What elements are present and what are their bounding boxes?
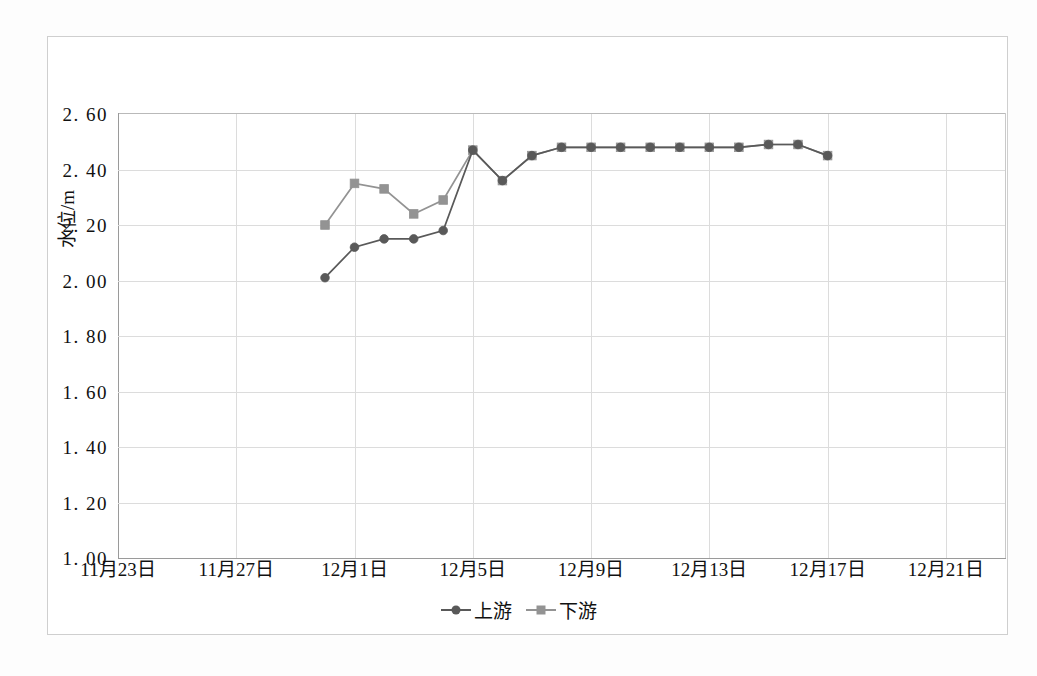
gridline-horizontal	[118, 503, 1005, 504]
legend-line-swatch	[441, 609, 471, 611]
gridline-vertical	[709, 114, 710, 558]
gridline-horizontal	[118, 447, 1005, 448]
x-tick-label: 11月27日	[199, 560, 274, 579]
y-tick-label: 1. 80	[0, 327, 108, 346]
gridline-vertical	[473, 114, 474, 558]
y-tick-label: 2. 40	[0, 161, 108, 180]
x-tick-label: 12月1日	[321, 560, 388, 579]
gridline-horizontal	[118, 336, 1005, 337]
gridline-vertical	[236, 114, 237, 558]
y-tick-label: 1. 60	[0, 383, 108, 402]
legend-label: 下游	[559, 596, 597, 623]
legend-line-swatch	[526, 609, 556, 611]
y-tick-label: 1. 20	[0, 494, 108, 513]
legend-marker-circle	[451, 605, 460, 614]
x-tick-label: 12月13日	[671, 560, 747, 579]
x-tick-label: 12月21日	[908, 560, 984, 579]
gridline-vertical	[355, 114, 356, 558]
y-tick-label: 2. 00	[0, 272, 108, 291]
x-tick-label: 12月5日	[440, 560, 507, 579]
gridline-horizontal	[118, 170, 1005, 171]
y-tick-label: 2. 60	[0, 105, 108, 124]
y-tick-label: 2. 20	[0, 216, 108, 235]
legend-marker-square	[536, 605, 545, 614]
legend-item[interactable]: 下游	[526, 596, 597, 623]
x-tick-label: 11月23日	[80, 560, 155, 579]
chart-page: 水位/m 2. 602. 402. 202. 001. 801. 601. 40…	[0, 0, 1037, 676]
gridline-vertical	[828, 114, 829, 558]
x-tick-label: 12月9日	[558, 560, 625, 579]
x-tick-label: 12月17日	[790, 560, 866, 579]
gridline-vertical	[591, 114, 592, 558]
gridline-horizontal	[118, 281, 1005, 282]
plot-border-right	[1005, 113, 1006, 559]
legend-item[interactable]: 上游	[441, 596, 512, 623]
chart-legend: 上游下游	[0, 596, 1037, 623]
gridline-horizontal	[118, 392, 1005, 393]
gridline-horizontal	[118, 225, 1005, 226]
legend-label: 上游	[474, 596, 512, 623]
gridline-vertical	[946, 114, 947, 558]
plot-border-bottom	[118, 558, 1006, 559]
plot-border-top	[118, 113, 1006, 114]
y-tick-label: 1. 40	[0, 438, 108, 457]
